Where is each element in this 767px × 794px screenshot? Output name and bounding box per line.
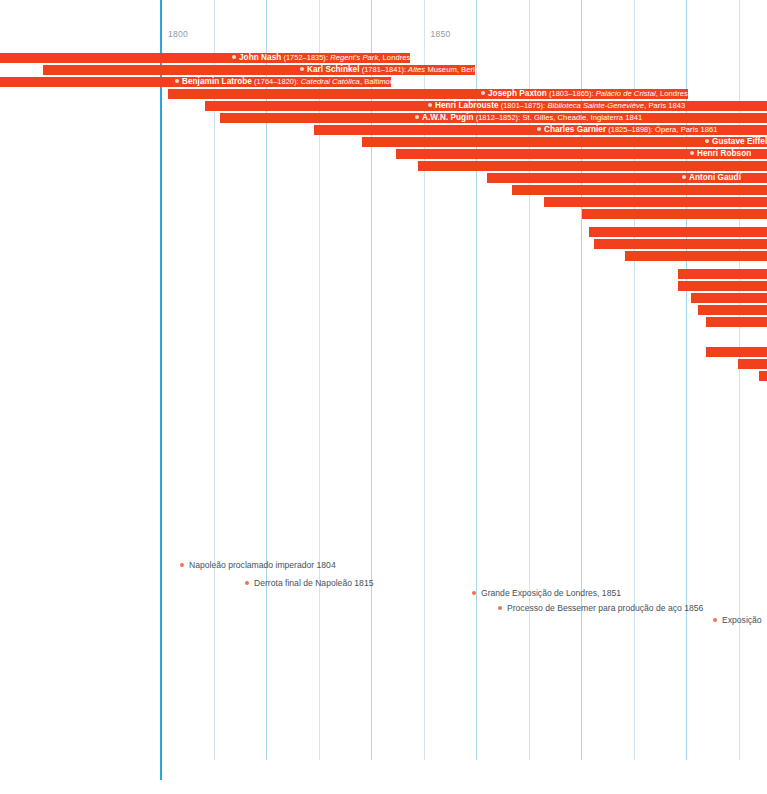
architect-name: John Nash — [239, 53, 281, 62]
bar-label: Charles Garnier (1825–1898): Ópera, Pari… — [537, 125, 718, 135]
bar-label: Antoni Gaudí — [682, 173, 741, 183]
architect-name: Joseph Paxton — [488, 89, 547, 98]
bullet-dot-icon — [232, 55, 236, 59]
bullet-dot-icon — [705, 139, 709, 143]
architect-work-location: , Londres 1851 — [656, 89, 707, 98]
timeline-event: Grande Exposição de Londres, 1851 — [472, 588, 621, 598]
timeline-bar — [738, 359, 767, 369]
timeline-event: Napoleão proclamado imperador 1804 — [180, 560, 336, 570]
event-dot-icon — [498, 606, 502, 610]
timeline-bar — [706, 347, 767, 357]
architect-name: Karl Schinkel — [307, 65, 360, 74]
timeline-bar — [589, 227, 767, 237]
architect-work: Biblioteca Sainte-Geneviève — [545, 101, 644, 110]
bar-label: Gustave Eiffel — [705, 137, 767, 147]
timeline-bar — [582, 209, 767, 219]
timeline-bar — [678, 269, 767, 279]
timeline-bar — [678, 281, 767, 291]
bullet-dot-icon — [415, 115, 419, 119]
axis-tick-1850: 1850 — [431, 29, 451, 39]
architect-dates: (1825–1898): — [606, 125, 653, 134]
architect-name: Benjamin Latrobe — [182, 77, 252, 86]
architect-name: Henri Robson — [697, 149, 751, 158]
timeline-chart: 18001850 John Nash (1752–1835): Regent's… — [0, 0, 767, 794]
bar-label: Joseph Paxton (1803–1865): Palácio de Cr… — [481, 89, 707, 99]
timeline-bar — [706, 317, 767, 327]
architect-work-location: St. Gilles, Cheadle, Inglaterra 1841 — [520, 113, 642, 122]
event-label: Grande Exposição de Londres, 1851 — [481, 588, 621, 598]
bar-label: A.W.N. Pugin (1812–1852): St. Gilles, Ch… — [415, 113, 642, 123]
bullet-dot-icon — [300, 67, 304, 71]
bullet-dot-icon — [428, 103, 432, 107]
timeline-bar — [691, 293, 767, 303]
architect-work-location: Museum, Berlim 1823 — [425, 65, 502, 74]
architect-work: Altes — [406, 65, 425, 74]
architect-name: Gustave Eiffel — [712, 137, 767, 146]
event-label: Napoleão proclamado imperador 1804 — [189, 560, 336, 570]
bullet-dot-icon — [682, 175, 686, 179]
bullet-dot-icon — [537, 127, 541, 131]
timeline-bar — [594, 239, 767, 249]
architect-dates: (1801–1875): — [499, 101, 546, 110]
timeline-bar — [544, 197, 767, 207]
architect-work-location: , Baltimore 1805 — [360, 77, 416, 86]
event-dot-icon — [472, 591, 476, 595]
architect-dates: (1803–1865): — [547, 89, 594, 98]
event-label: Derrota final de Napoleão 1815 — [254, 578, 373, 588]
architect-dates: (1781–1841): — [360, 65, 407, 74]
architect-name: Henri Labrouste — [435, 101, 499, 110]
timeline-bar — [625, 251, 767, 261]
timeline-bar — [698, 305, 767, 315]
gridline-1810 — [214, 0, 215, 760]
architect-work-location: , Paris 1843 — [644, 101, 685, 110]
timeline-event: Exposição — [713, 615, 762, 625]
architect-dates: (1812–1852): — [474, 113, 521, 122]
bar-label: Henri Labrouste (1801–1875): Biblioteca … — [428, 101, 685, 111]
bar-label: Henri Robson — [690, 149, 751, 159]
architect-dates: (1764–1820): — [252, 77, 299, 86]
timeline-bar — [759, 371, 767, 381]
timeline-event: Derrota final de Napoleão 1815 — [245, 578, 373, 588]
timeline-bar — [512, 185, 767, 195]
architect-name: Antoni Gaudí — [689, 173, 741, 182]
event-dot-icon — [713, 618, 717, 622]
architect-dates: (1752–1835): — [281, 53, 328, 62]
bullet-dot-icon — [481, 91, 485, 95]
bar-label: John Nash (1752–1835): Regent's Park, Lo… — [232, 53, 430, 63]
architect-work-location: Ópera, Paris 1861 — [653, 125, 718, 134]
gridline-1800 — [160, 0, 162, 780]
bullet-dot-icon — [690, 151, 694, 155]
timeline-bar — [418, 161, 767, 171]
event-label: Exposição — [722, 615, 762, 625]
architect-name: A.W.N. Pugin — [422, 113, 474, 122]
architect-work: Palácio de Cristal — [594, 89, 656, 98]
event-label: Processo de Bessemer para produção de aç… — [507, 603, 703, 613]
axis-tick-1800: 1800 — [168, 29, 188, 39]
architect-work: Catedral Católica — [299, 77, 360, 86]
bullet-dot-icon — [175, 79, 179, 83]
bar-label: Karl Schinkel (1781–1841): Altes Museum,… — [300, 65, 502, 75]
event-dot-icon — [180, 563, 184, 567]
timeline-event: Processo de Bessemer para produção de aç… — [498, 603, 703, 613]
architect-name: Charles Garnier — [544, 125, 606, 134]
event-dot-icon — [245, 581, 249, 585]
architect-work: Regent's Park — [328, 53, 378, 62]
bar-label: Benjamin Latrobe (1764–1820): Catedral C… — [175, 77, 416, 87]
architect-work-location: , Londres 1812 — [378, 53, 429, 62]
